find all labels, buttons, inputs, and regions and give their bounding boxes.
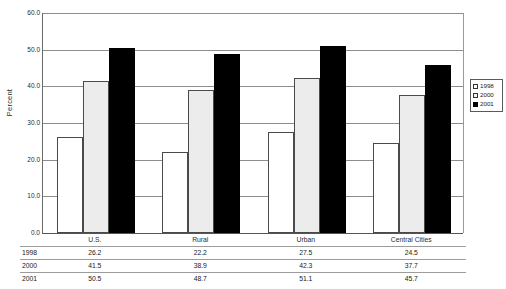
- x-category-label: Urban: [253, 236, 359, 243]
- table-row-label: 2000: [22, 262, 37, 269]
- legend-item-2000[interactable]: 2000: [473, 91, 500, 100]
- plot-area: [42, 13, 464, 233]
- table-cell: 37.7: [359, 262, 465, 269]
- bar-group: [254, 13, 360, 233]
- table-row-label: 1998: [22, 249, 37, 256]
- bar-2000-u-s: [83, 81, 109, 233]
- bar-series-container: [43, 13, 463, 233]
- row-rule: [20, 259, 466, 260]
- table-cell: 27.5: [253, 249, 359, 256]
- bar-1998-rural: [162, 152, 188, 233]
- bar-group: [360, 13, 466, 233]
- table-cell: 51.1: [253, 275, 359, 282]
- legend-label: 1998: [480, 83, 494, 89]
- table-row-label: 2001: [22, 275, 37, 282]
- bar-chart-figure: Percent 60.050.040.030.020.010.00.0 U.S.…: [0, 0, 506, 289]
- legend-label: 2000: [480, 92, 494, 98]
- y-tick-label: 30.0: [12, 120, 40, 127]
- x-category-label: Rural: [148, 236, 254, 243]
- bar-2001-rural: [214, 54, 240, 233]
- y-axis-title: Percent: [5, 68, 14, 138]
- bar-group: [43, 13, 149, 233]
- row-rule: [20, 246, 466, 247]
- table-cell: 26.2: [42, 249, 148, 256]
- y-tick-label: 20.0: [12, 157, 40, 164]
- legend-swatch-icon: [473, 102, 478, 107]
- table-cell: 48.7: [148, 275, 254, 282]
- bar-1998-central-cities: [373, 143, 399, 233]
- legend-item-2001[interactable]: 2001: [473, 100, 500, 109]
- chart-legend: 199820002001: [470, 79, 503, 112]
- y-tick-label: 10.0: [12, 193, 40, 200]
- y-tick-label: 0.0: [12, 230, 40, 237]
- table-cell: 38.9: [148, 262, 254, 269]
- legend-item-1998[interactable]: 1998: [473, 82, 500, 91]
- row-rule: [20, 272, 466, 273]
- bar-1998-urban: [268, 132, 294, 233]
- table-cell: 41.5: [42, 262, 148, 269]
- bar-group: [149, 13, 255, 233]
- table-cell: 50.5: [42, 275, 148, 282]
- table-cell: 45.7: [359, 275, 465, 282]
- bar-2001-urban: [320, 46, 346, 233]
- table-cell: 24.5: [359, 249, 465, 256]
- bar-2000-urban: [294, 78, 320, 233]
- bar-2001-u-s: [109, 48, 135, 233]
- table-row: 199826.222.227.524.5: [0, 246, 466, 259]
- legend-swatch-icon: [473, 93, 478, 98]
- chart-data-table: 199826.222.227.524.5200041.538.942.337.7…: [0, 246, 466, 289]
- legend-swatch-icon: [473, 84, 478, 89]
- bar-2000-central-cities: [399, 95, 425, 233]
- x-category-label: Central Cities: [359, 236, 465, 243]
- table-cell: 22.2: [148, 249, 254, 256]
- legend-label: 2001: [480, 101, 494, 107]
- y-tick-label: 40.0: [12, 83, 40, 90]
- bar-2000-rural: [188, 90, 214, 233]
- bar-2001-central-cities: [425, 65, 451, 233]
- y-tick-label: 50.0: [12, 47, 40, 54]
- x-category-label: U.S.: [42, 236, 148, 243]
- y-tick-label: 60.0: [12, 10, 40, 17]
- bar-1998-u-s: [57, 137, 83, 233]
- table-row: 200041.538.942.337.7: [0, 259, 466, 272]
- gridline: [43, 233, 463, 234]
- table-row: 200150.548.751.145.7: [0, 272, 466, 285]
- table-cell: 42.3: [253, 262, 359, 269]
- chart-plot-region: Percent 60.050.040.030.020.010.00.0 U.S.…: [0, 0, 506, 240]
